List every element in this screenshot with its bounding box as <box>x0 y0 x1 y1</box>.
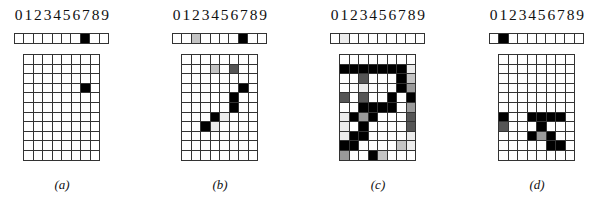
grid-cell <box>249 141 259 151</box>
grid-cell <box>43 65 53 75</box>
digit-label: 4 <box>368 7 377 23</box>
grid-cell <box>547 113 557 123</box>
digit-label: 8 <box>566 7 575 23</box>
grid-cell <box>81 113 91 123</box>
strip-cell <box>537 34 546 44</box>
grid-cell <box>528 55 538 65</box>
grid-cell <box>62 132 72 142</box>
digit-labels: 0123456789 <box>330 7 426 23</box>
grid-cell <box>220 74 230 84</box>
grid-cell <box>230 103 240 113</box>
grid-cell <box>249 55 259 65</box>
digit-labels: 0123456789 <box>14 7 110 23</box>
grid-cell <box>518 84 528 94</box>
grid-cell <box>509 74 519 84</box>
grid-cell <box>547 84 557 94</box>
grid-cell <box>369 74 379 84</box>
strip-cell <box>378 34 387 44</box>
grid-cell <box>201 74 211 84</box>
grid-cell <box>388 113 398 123</box>
grid-cell <box>43 122 53 132</box>
grid-cell <box>24 93 34 103</box>
strip-cell <box>331 34 340 44</box>
panel-caption: (b) <box>172 177 268 193</box>
grid-cell <box>81 141 91 151</box>
grid-cell <box>230 151 240 161</box>
grid-cell <box>192 65 202 75</box>
digit-label: 4 <box>52 7 61 23</box>
grid-cell <box>249 65 259 75</box>
grid-cell <box>53 113 63 123</box>
grid-cell <box>518 103 528 113</box>
grid-cell <box>34 141 44 151</box>
strip-cell <box>499 34 508 44</box>
strip-cell <box>173 34 182 44</box>
grid-cell <box>509 84 519 94</box>
grid-cell <box>388 103 398 113</box>
grid-cell <box>53 132 63 142</box>
grid-cell <box>369 132 379 142</box>
grid-cell <box>62 74 72 84</box>
grid-cell <box>388 55 398 65</box>
grid-cell <box>378 151 388 161</box>
grid-cell <box>62 113 72 123</box>
strip-cell <box>81 34 90 44</box>
grid-cell <box>62 65 72 75</box>
grid-cell <box>547 74 557 84</box>
digit-label: 6 <box>72 7 81 23</box>
digit-label: 7 <box>81 7 90 23</box>
grid-cell <box>378 103 388 113</box>
grid-cell <box>547 141 557 151</box>
grid-cell <box>566 132 576 142</box>
input-grid <box>23 54 100 161</box>
grid-cell <box>518 113 528 123</box>
grid-cell <box>528 93 538 103</box>
grid-cell <box>24 113 34 123</box>
grid-cell <box>388 84 398 94</box>
panel-a: 0123456789(a) <box>14 0 164 200</box>
grid-cell <box>547 122 557 132</box>
strip-cell <box>90 34 99 44</box>
grid-cell <box>34 113 44 123</box>
grid-cell <box>350 113 360 123</box>
grid-cell <box>407 84 417 94</box>
grid-cell <box>239 55 249 65</box>
grid-cell <box>220 132 230 142</box>
digit-label: 0 <box>489 7 498 23</box>
grid-cell <box>81 55 91 65</box>
grid-cell <box>566 151 576 161</box>
grid-cell <box>211 74 221 84</box>
grid-cell <box>397 55 407 65</box>
grid-cell <box>407 113 417 123</box>
grid-cell <box>230 93 240 103</box>
grid-cell <box>350 74 360 84</box>
grid-cell <box>350 122 360 132</box>
grid-cell <box>239 151 249 161</box>
grid-cell <box>220 122 230 132</box>
grid-cell <box>192 55 202 65</box>
grid-cell <box>53 84 63 94</box>
grid-cell <box>43 132 53 142</box>
grid-cell <box>556 93 566 103</box>
grid-cell <box>91 113 101 123</box>
grid-cell <box>407 103 417 113</box>
grid-cell <box>407 132 417 142</box>
digit-labels: 0123456789 <box>489 7 585 23</box>
digit-label: 1 <box>24 7 33 23</box>
grid-cell <box>239 113 249 123</box>
strip-cell <box>211 34 220 44</box>
strip-cell <box>575 34 584 44</box>
grid-cell <box>72 84 82 94</box>
grid-cell <box>81 132 91 142</box>
grid-cell <box>201 103 211 113</box>
grid-cell <box>192 122 202 132</box>
input-grid <box>181 54 258 161</box>
grid-cell <box>34 55 44 65</box>
grid-cell <box>378 93 388 103</box>
strip-cell <box>62 34 71 44</box>
grid-cell <box>369 141 379 151</box>
strip-cell <box>220 34 229 44</box>
panel-d: 0123456789(d) <box>489 0 596 200</box>
grid-cell <box>182 122 192 132</box>
grid-cell <box>556 151 566 161</box>
